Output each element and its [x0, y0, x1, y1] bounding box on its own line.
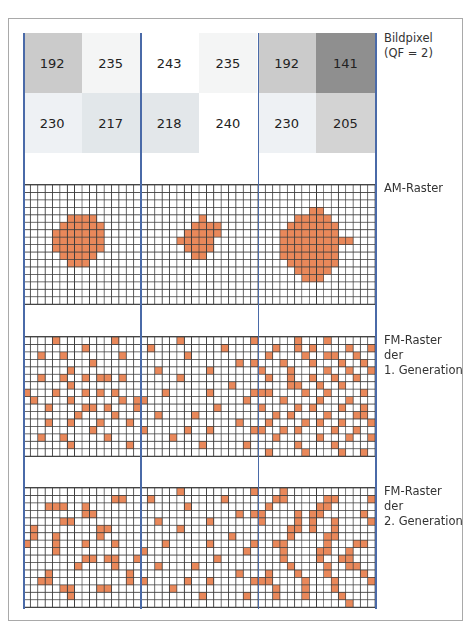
pixel-value: 192 [23, 33, 82, 93]
pixel-value: 217 [82, 93, 141, 153]
label-line: 2. Generation [384, 514, 463, 529]
label-line: AM-Raster [384, 181, 443, 196]
pixel-value: 243 [140, 33, 199, 93]
divider-line [23, 33, 25, 609]
label-am-raster: AM-Raster [384, 181, 443, 196]
divider-line [258, 33, 260, 609]
pixel-value: 230 [23, 93, 82, 153]
label-line: Bildpixel [384, 31, 433, 46]
divider-line [375, 33, 377, 609]
label-line: der [384, 499, 463, 514]
pixel-value: 235 [199, 33, 258, 93]
pixel-value: 230 [258, 93, 317, 153]
fm2-raster-grid [140, 487, 258, 608]
fm2-raster-grid [23, 487, 141, 608]
label-line: der [384, 348, 463, 363]
am-raster-grid [140, 184, 258, 305]
label-line: FM-Raster [384, 484, 463, 499]
label-line: FM-Raster [384, 333, 463, 348]
pixel-value: 141 [316, 33, 375, 93]
fm1-raster-grid [23, 336, 141, 457]
pixel-value: 205 [316, 93, 375, 153]
pixel-value: 240 [199, 93, 258, 153]
label-fm-raster-gen2: FM-Raster der 2. Generation [384, 484, 463, 529]
label-line: 1. Generation [384, 363, 463, 378]
am-raster-grid [258, 184, 376, 305]
pixel-value: 218 [140, 93, 199, 153]
fm2-raster-grid [258, 487, 376, 608]
pixel-value: 192 [258, 33, 317, 93]
fm1-raster-grid [258, 336, 376, 457]
label-fm-raster-gen1: FM-Raster der 1. Generation [384, 333, 463, 378]
divider-line [140, 33, 142, 609]
fm1-raster-grid [140, 336, 258, 457]
am-raster-grid [23, 184, 141, 305]
label-bildpixel: Bildpixel (QF = 2) [384, 31, 433, 61]
label-line: (QF = 2) [384, 46, 433, 61]
pixel-value: 235 [82, 33, 141, 93]
